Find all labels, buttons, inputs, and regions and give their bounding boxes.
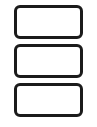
rounded-rectangle-bottom[interactable]	[14, 83, 83, 117]
canvas-root	[0, 0, 97, 127]
rounded-rectangle-bottom-label	[17, 86, 80, 114]
rounded-rectangle-top[interactable]	[14, 5, 83, 39]
shape-stack	[0, 0, 97, 127]
rounded-rectangle-middle[interactable]	[14, 44, 83, 78]
rounded-rectangle-middle-label	[17, 47, 80, 75]
rounded-rectangle-top-label	[17, 8, 80, 36]
